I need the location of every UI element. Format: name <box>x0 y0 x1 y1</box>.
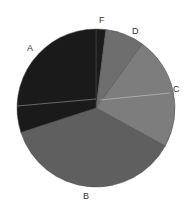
pie-slices <box>17 29 175 187</box>
slice-label-d: D <box>132 26 139 36</box>
slice-label-b: B <box>83 191 89 201</box>
pie-chart: F D C B A <box>0 0 193 211</box>
slice-label-c: C <box>173 84 180 94</box>
slice-label-a: A <box>27 43 33 53</box>
slice-label-f: F <box>99 15 105 25</box>
